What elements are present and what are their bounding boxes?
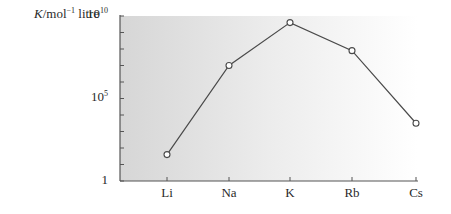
x-tick-label-na: Na [214,185,244,201]
x-tick-label-li: Li [152,185,182,201]
data-point-k [287,20,293,26]
data-point-cs [413,120,419,126]
x-tick-label-rb: Rb [337,185,367,201]
x-tick-label-cs: Cs [401,185,431,201]
chart-plot-area [0,0,451,214]
data-point-na [226,63,232,69]
data-point-li [164,152,170,158]
x-tick-label-k: K [275,185,305,201]
data-point-rb [349,48,355,54]
